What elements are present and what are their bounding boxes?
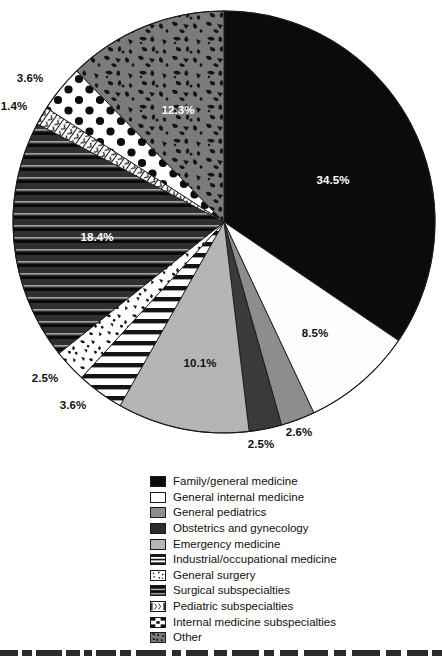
legend-item: Emergency medicine xyxy=(150,536,430,552)
legend-swatch-icon xyxy=(150,585,166,596)
legend-item-label: Family/general medicine xyxy=(173,475,298,488)
legend-item: Obstetrics and gynecology xyxy=(150,521,430,537)
chart-legend: Family/general medicineGeneral internal … xyxy=(150,474,430,646)
legend-item: Family/general medicine xyxy=(150,474,430,490)
legend-item: Pediatric subspecialties xyxy=(150,599,430,615)
legend-item: Industrial/occupational medicine xyxy=(150,552,430,568)
pie-slice-value-label: 2.5% xyxy=(248,438,275,450)
legend-item: General pediatrics xyxy=(150,505,430,521)
legend-item: Internal medicine subspecialties xyxy=(150,614,430,630)
legend-swatch-icon xyxy=(150,570,166,581)
pie-chart-plot-area: 34.5%8.5%2.6%2.5%10.1%3.6%2.5%18.4%1.4%3… xyxy=(0,0,442,460)
legend-item-label: General pediatrics xyxy=(173,506,266,519)
pie-slice-value-label: 8.5% xyxy=(302,327,329,339)
legend-item-label: Emergency medicine xyxy=(173,538,280,551)
pie-slices xyxy=(13,11,435,433)
pie-slice-value-label: 2.6% xyxy=(286,426,313,438)
legend-swatch-icon xyxy=(150,539,166,550)
pie-slice-value-label: 18.4% xyxy=(80,231,113,243)
legend-item-label: General surgery xyxy=(173,569,255,582)
legend-item: General internal medicine xyxy=(150,490,430,506)
pie-slice-value-label: 3.6% xyxy=(60,399,87,411)
legend-item: General surgery xyxy=(150,568,430,584)
legend-item-label: Obstetrics and gynecology xyxy=(173,522,309,535)
legend-swatch-icon xyxy=(150,632,166,643)
legend-item: Surgical subspecialties xyxy=(150,583,430,599)
page-bottom-rule xyxy=(0,650,442,656)
pie-slice-value-label: 2.5% xyxy=(32,372,59,384)
pie-slice-value-label: 12.3% xyxy=(161,104,194,116)
legend-swatch-icon xyxy=(150,507,166,518)
pie-slice-value-label: 10.1% xyxy=(183,357,216,369)
legend-item-label: General internal medicine xyxy=(173,491,304,504)
legend-item-label: Internal medicine subspecialties xyxy=(173,616,336,629)
legend-item-label: Industrial/occupational medicine xyxy=(173,553,337,566)
pie-slice-value-label: 3.6% xyxy=(17,72,44,84)
pie-chart-figure: 34.5%8.5%2.6%2.5%10.1%3.6%2.5%18.4%1.4%3… xyxy=(0,0,442,659)
legend-item-label: Other xyxy=(173,631,202,644)
pie-chart-svg xyxy=(0,0,442,460)
legend-swatch-icon xyxy=(150,492,166,503)
legend-item: Other xyxy=(150,630,430,646)
legend-swatch-icon xyxy=(150,554,166,565)
legend-item-label: Surgical subspecialties xyxy=(173,584,290,597)
legend-swatch-icon xyxy=(150,523,166,534)
legend-swatch-icon xyxy=(150,617,166,628)
legend-swatch-icon xyxy=(150,476,166,487)
pie-slice-value-label: 34.5% xyxy=(316,174,349,186)
legend-item-label: Pediatric subspecialties xyxy=(173,600,293,613)
legend-swatch-icon xyxy=(150,601,166,612)
pie-slice-value-label: 1.4% xyxy=(1,100,28,112)
